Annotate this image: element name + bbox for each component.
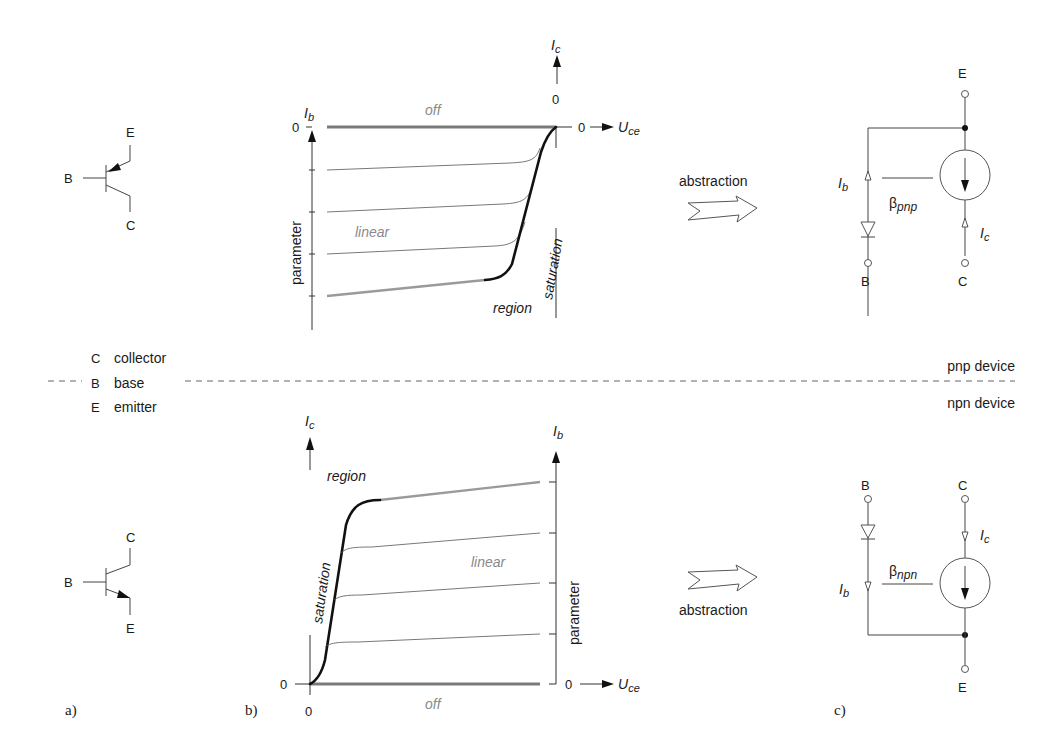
- diode-icon: [861, 525, 875, 538]
- pnp-off-label: off: [425, 102, 443, 118]
- pnp-symbol-e: E: [126, 125, 135, 140]
- ib-axis-arrow-icon: [308, 130, 316, 142]
- ic-direction-arrow-icon: [962, 532, 968, 541]
- pnp-ic-zero: 0: [552, 92, 559, 107]
- pnp-symbol-c: C: [126, 218, 135, 233]
- pnp-uce-zero: 0: [578, 120, 585, 135]
- npn-symbol-e: E: [126, 621, 135, 636]
- pnp-saturation-label: saturation: [539, 237, 565, 301]
- transistor-diagram: E B C C collector B base E emitter pnp d…: [0, 0, 1053, 756]
- pnp-circuit-e: E: [958, 66, 967, 81]
- ic-axis-arrow-icon: [553, 55, 561, 67]
- pnp-uce-axis-label: Uce: [618, 119, 640, 137]
- pnp-parameter-label: parameter: [288, 221, 304, 285]
- npn-circuit-c: C: [958, 478, 967, 493]
- npn-ic-axis-label: Ic: [305, 413, 315, 431]
- npn-x-zero: 0: [305, 704, 312, 719]
- npn-parameter-label: parameter: [566, 581, 582, 645]
- legend-text-emitter: emitter: [114, 399, 157, 415]
- npn-ib-axis-label: Ib: [553, 423, 563, 441]
- panel-label-b: b): [245, 702, 258, 719]
- npn-transistor-symbol: C B E: [64, 530, 135, 636]
- pnp-ib-zero: 0: [292, 120, 299, 135]
- legend-letter-e: E: [91, 400, 100, 415]
- hollow-arrow-icon: [688, 196, 757, 222]
- uce-axis-arrow-icon: [602, 123, 614, 131]
- ib-direction-arrow-icon: [865, 171, 871, 180]
- npn-uce-axis-label: Uce: [618, 676, 640, 694]
- npn-circuit-ic: Ic: [980, 527, 990, 545]
- ic-axis-arrow-icon: [306, 437, 314, 450]
- pnp-equivalent-circuit: E C B Ib βpnp Ic: [838, 66, 990, 316]
- npn-saturation-label: saturation: [309, 561, 333, 624]
- npn-circuit-beta: βnpn: [889, 563, 917, 582]
- legend: C collector B base E emitter: [91, 350, 166, 415]
- emitter-arrow-icon: [108, 163, 121, 172]
- diode-icon: [861, 222, 875, 236]
- pnp-circuit-ic: Ic: [980, 225, 990, 243]
- npn-circuit-b: B: [861, 478, 870, 493]
- pnp-circuit-c: C: [958, 274, 967, 289]
- pnp-transistor-symbol: E B C: [64, 125, 135, 233]
- npn-circuit-ib: Ib: [839, 581, 849, 599]
- uce-axis-arrow-icon: [602, 680, 614, 688]
- pnp-circuit-beta: βpnp: [889, 195, 917, 214]
- npn-symbol-c: C: [126, 530, 135, 545]
- abstraction-label-bottom: abstraction: [679, 602, 747, 618]
- npn-symbol-b: B: [64, 575, 73, 590]
- npn-linear-label: linear: [471, 554, 507, 570]
- pnp-characteristic-chart: Ib 0 parameter Ic 0 0 Uce off linear sat…: [288, 37, 640, 330]
- ib-direction-arrow-icon: [865, 582, 871, 591]
- npn-device-label: npn device: [947, 395, 1015, 411]
- npn-characteristic-chart: Ic 0 0 Ib 0 Uce parameter off region lin…: [280, 413, 640, 719]
- npn-off-label: off: [425, 696, 443, 712]
- abstraction-arrow-top: abstraction: [679, 173, 757, 222]
- npn-circuit-e: E: [958, 680, 967, 695]
- pnp-ib-axis-label: Ib: [304, 105, 314, 123]
- emitter-arrow-icon: [117, 590, 130, 598]
- panel-label-a: a): [65, 702, 77, 719]
- pnp-circuit-ib: Ib: [838, 175, 848, 193]
- legend-letter-c: C: [91, 351, 100, 366]
- pnp-device-label: pnp device: [947, 358, 1015, 374]
- legend-text-base: base: [114, 375, 145, 391]
- ib-axis-arrow-icon: [552, 451, 560, 463]
- legend-text-collector: collector: [114, 350, 166, 366]
- abstraction-arrow-bottom: abstraction: [679, 565, 757, 618]
- panel-label-c: c): [834, 702, 846, 719]
- npn-ib-zero: 0: [565, 677, 572, 692]
- abstraction-label-top: abstraction: [679, 173, 747, 189]
- npn-equivalent-circuit: B C E βnpn Ib Ic: [839, 478, 990, 695]
- pnp-region-label: region: [493, 300, 532, 316]
- npn-ic-zero: 0: [280, 677, 287, 692]
- ic-direction-arrow-icon: [962, 218, 968, 227]
- hollow-arrow-icon: [688, 565, 757, 591]
- legend-letter-b: B: [91, 376, 100, 391]
- pnp-symbol-b: B: [64, 171, 73, 186]
- pnp-linear-label: linear: [355, 224, 391, 240]
- pnp-ic-axis-label: Ic: [551, 37, 561, 55]
- pnp-circuit-b: B: [861, 274, 870, 289]
- npn-region-label: region: [327, 468, 366, 484]
